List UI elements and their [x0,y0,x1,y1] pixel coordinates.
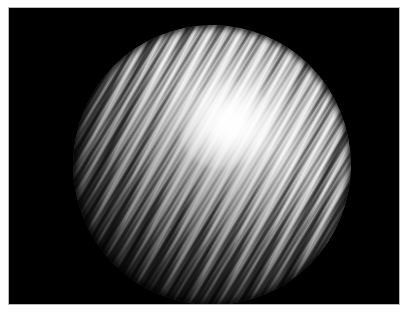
render-canvas [9,8,399,304]
render-frame [0,0,412,323]
sphere-object [73,25,351,304]
sphere-edge-feather [73,25,351,304]
